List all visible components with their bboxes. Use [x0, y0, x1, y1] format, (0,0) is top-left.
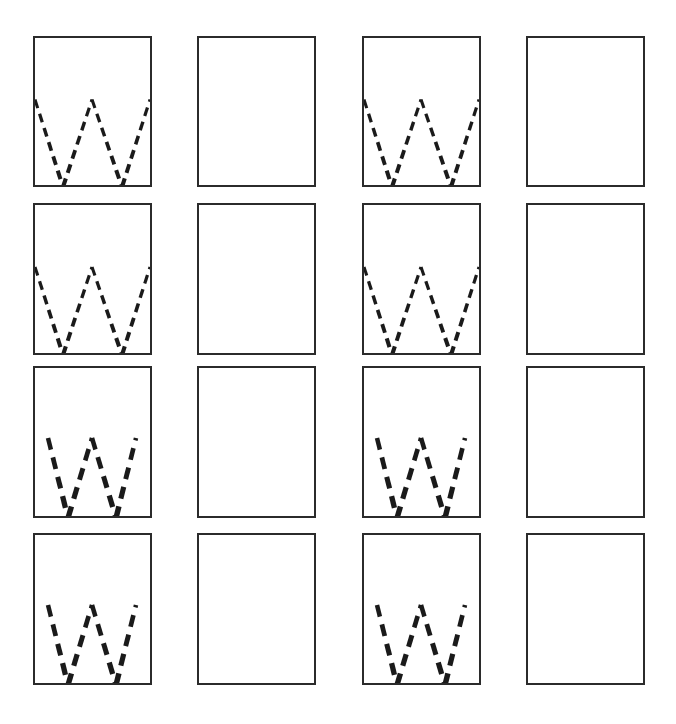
w-pattern-dash — [450, 654, 453, 666]
w-pattern-dash — [49, 310, 52, 319]
w-pattern-dash — [456, 332, 459, 341]
w-pattern-dash — [102, 295, 105, 304]
w-pattern-dash — [135, 438, 136, 440]
w-pattern-dash — [392, 178, 395, 185]
w-pattern — [364, 205, 479, 353]
panel-r4-c3 — [362, 533, 481, 685]
w-pattern-dash — [103, 643, 106, 654]
w-pattern-dash — [426, 281, 429, 290]
w-pattern-dash — [58, 477, 61, 489]
w-pattern-dash — [53, 156, 56, 165]
w-pattern-dash — [77, 304, 80, 313]
panel-r3-c2 — [197, 366, 316, 518]
w-pattern-dash — [421, 438, 424, 449]
w-pattern-dash — [145, 107, 148, 116]
w-pattern-dash — [149, 100, 150, 102]
w-pattern — [364, 38, 479, 185]
w-pattern-dash — [427, 624, 430, 635]
w-pattern-dash — [469, 122, 472, 131]
w-pattern-dash — [131, 318, 134, 327]
w-pattern-dash — [72, 150, 75, 158]
panel-r2-c4 — [526, 203, 645, 355]
panel-r3-c1 — [33, 366, 152, 518]
w-pattern-dash — [382, 324, 385, 333]
w-pattern-dash — [460, 615, 463, 627]
panel-r3-c3 — [362, 366, 481, 518]
w-pattern-dash — [382, 457, 385, 469]
w-pattern-dash — [465, 304, 468, 313]
w-pattern-dash — [392, 346, 395, 353]
w-pattern-dash — [135, 605, 136, 607]
w-pattern-dash — [86, 275, 89, 284]
w-pattern-dash — [377, 605, 380, 617]
w-pattern-dash — [63, 346, 66, 353]
w-pattern-dash — [122, 346, 125, 353]
w-pattern-dash — [92, 267, 95, 276]
w-pattern-dash — [406, 304, 409, 313]
w-pattern-dash — [122, 178, 125, 185]
w-pattern-dash — [440, 156, 443, 164]
w-pattern-dash — [107, 310, 110, 319]
w-pattern-dash — [414, 616, 417, 627]
w-pattern-dash — [140, 289, 143, 298]
w-pattern-dash — [411, 122, 414, 130]
w-pattern-dash — [68, 332, 71, 341]
panel-r3-c4 — [526, 366, 645, 518]
w-pattern-dash — [82, 289, 85, 298]
panel-r4-c1 — [33, 533, 152, 685]
w-pattern-dash — [378, 310, 381, 319]
w-pattern-dash — [421, 267, 424, 276]
w-pattern-dash — [421, 605, 424, 616]
w-pattern-dash — [63, 663, 66, 675]
w-pattern-dash — [408, 635, 411, 646]
w-pattern-dash — [35, 267, 38, 276]
w-pattern-dash — [131, 150, 134, 159]
w-pattern-dash — [406, 136, 409, 144]
w-pattern-dash — [103, 476, 106, 487]
w-pattern-dash — [377, 438, 380, 450]
w-pattern-dash — [456, 164, 459, 173]
w-pattern-dash — [97, 281, 100, 290]
w-pattern-dash — [401, 318, 404, 327]
w-pattern-dash — [149, 267, 150, 269]
w-pattern-dash — [116, 673, 119, 683]
panel-r2-c3 — [362, 203, 481, 355]
w-pattern-dash — [58, 644, 61, 656]
w-pattern-dash — [58, 171, 61, 180]
w-pattern-dash — [403, 487, 406, 498]
w-pattern-dash — [426, 114, 429, 122]
w-pattern-dash — [85, 616, 88, 627]
w-pattern-dash — [445, 338, 448, 347]
w-pattern-dash — [421, 100, 424, 108]
w-pattern-dash — [109, 662, 112, 673]
w-pattern-dash — [397, 164, 400, 172]
w-pattern-dash — [474, 275, 477, 284]
w-pattern-dash — [44, 128, 47, 137]
w-pattern-dash — [98, 457, 101, 468]
panel-r4-c4 — [526, 533, 645, 685]
w-pattern-dash — [53, 457, 56, 469]
w-pattern-dash — [116, 338, 119, 347]
w-pattern-dash — [397, 674, 400, 683]
w-pattern-dash — [464, 438, 465, 440]
w-pattern-dash — [48, 605, 51, 617]
w-pattern-dash — [387, 644, 390, 656]
w-pattern-dash — [102, 128, 105, 136]
w-pattern-dash — [364, 267, 367, 276]
panel-grid — [0, 0, 676, 724]
w-pattern-dash — [68, 164, 71, 172]
w-pattern-dash — [414, 449, 417, 460]
w-pattern-dash — [369, 281, 372, 290]
w-pattern-dash — [469, 289, 472, 298]
w-pattern-dash — [53, 324, 56, 333]
w-pattern-dash — [464, 605, 465, 607]
panel-r2-c1 — [33, 203, 152, 355]
w-pattern — [35, 368, 150, 516]
w-pattern-dash — [136, 304, 139, 313]
w-pattern-dash — [86, 108, 89, 116]
w-pattern-dash — [107, 142, 110, 150]
w-pattern-dash — [40, 281, 43, 290]
w-pattern-dash — [79, 468, 82, 479]
w-pattern-dash — [401, 150, 404, 158]
w-pattern-dash — [474, 107, 477, 116]
